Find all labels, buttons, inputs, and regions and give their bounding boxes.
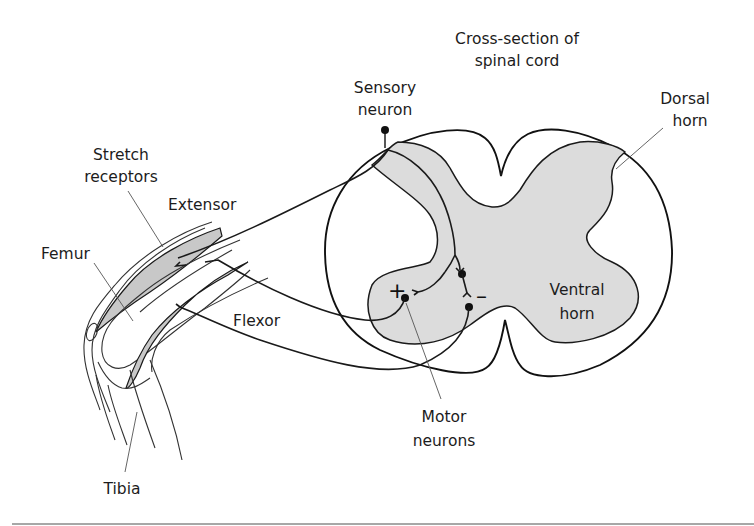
tibia-label: Tibia [103, 480, 141, 498]
sensory-cell-body [381, 126, 389, 134]
flexor-label: Flexor [233, 312, 281, 330]
ventral-horn-label-line2: horn [559, 305, 594, 323]
spinal-cord-cross-section [325, 130, 672, 377]
motor-neurons-label: Motor [422, 408, 467, 426]
grey-matter [368, 142, 638, 344]
title-label: Cross-section of [455, 30, 579, 48]
tibia-bone-front [130, 370, 155, 448]
motor-neurons-label-line2: neurons [413, 432, 476, 450]
stretch-receptors-leader [128, 191, 163, 247]
ventral-horn-label: Ventral [549, 281, 604, 299]
sensory-neuron-label-line2: neuron [358, 101, 413, 119]
reflex-arc-diagram: Cross-section of spinal cord Sensory neu… [0, 0, 754, 526]
knee-joint [98, 362, 150, 388]
dorsal-horn-label-line2: horn [672, 112, 707, 130]
stretch-receptors-label: Stretch [93, 146, 149, 164]
extensor-label: Extensor [168, 196, 237, 214]
excitatory-sign: + [388, 278, 406, 303]
dorsal-horn-leader [616, 128, 663, 169]
tibia-leader [125, 412, 137, 472]
femur-label: Femur [41, 245, 91, 263]
stretch-receptors-label-line2: receptors [84, 168, 157, 186]
title-label-line2: spinal cord [475, 52, 560, 70]
dorsal-horn-label: Dorsal [660, 90, 710, 108]
sensory-neuron-label: Sensory [354, 79, 416, 97]
shin-outline-2 [108, 385, 127, 445]
inhibitory-sign: – [476, 283, 487, 308]
flexor-nerve-ending [176, 304, 180, 307]
calf-outline [150, 360, 182, 460]
leg [84, 222, 268, 460]
